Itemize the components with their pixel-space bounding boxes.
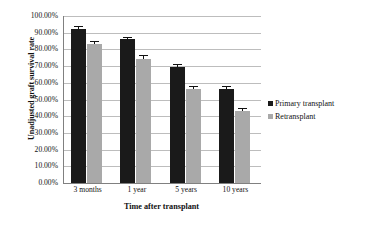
y-tick-label: 80.00% — [14, 46, 58, 54]
graft-survival-bar-chart: Unadjusted graft survival rate 0.00%10.0… — [0, 0, 367, 226]
error-bar-stem — [242, 109, 243, 111]
bar-retransplant — [186, 89, 201, 183]
y-tick-label: 60.00% — [14, 79, 58, 87]
legend-entry: Retransplant — [268, 112, 366, 121]
x-axis-title: Time after transplant — [63, 202, 260, 211]
bar-group — [113, 16, 162, 183]
legend-swatch-icon — [268, 101, 273, 106]
error-bar-stem — [127, 38, 128, 39]
error-bar-stem — [78, 27, 79, 29]
bar-primary-transplant — [170, 67, 185, 183]
y-tick-label: 20.00% — [14, 146, 58, 154]
x-tick-label: 5 years — [162, 185, 211, 194]
legend-entry: Primary transplant — [268, 99, 366, 108]
bar-group — [163, 16, 212, 183]
y-tick-label: 100.00% — [14, 12, 58, 20]
bar-group — [64, 16, 113, 183]
x-axis-tick-labels: 3 months1 year5 years10 years — [63, 185, 260, 199]
bar-primary-transplant — [219, 89, 234, 183]
y-tick-label: 0.00% — [14, 179, 58, 187]
error-bar-stem — [143, 56, 144, 59]
legend-swatch-icon — [268, 114, 273, 119]
bar-primary-transplant — [120, 39, 135, 183]
y-tick-label: 90.00% — [14, 29, 58, 37]
legend-label: Retransplant — [275, 112, 315, 121]
y-tick-label: 40.00% — [14, 112, 58, 120]
bar-primary-transplant — [71, 29, 86, 183]
legend: Primary transplantRetransplant — [268, 99, 366, 125]
legend-label: Primary transplant — [275, 99, 334, 108]
error-bar-stem — [226, 87, 227, 88]
error-bar-stem — [177, 65, 178, 66]
bar-retransplant — [136, 59, 151, 183]
bar-retransplant — [87, 44, 102, 183]
y-tick-label: 50.00% — [14, 96, 58, 104]
y-axis-tick-labels: 0.00%10.00%20.00%30.00%40.00%50.00%60.00… — [14, 16, 58, 183]
error-bar-stem — [193, 87, 194, 89]
y-tick-label: 30.00% — [14, 129, 58, 137]
plot-area — [63, 16, 261, 184]
x-tick-label: 3 months — [63, 185, 112, 194]
x-tick-label: 10 years — [211, 185, 260, 194]
y-tick-label: 10.00% — [14, 163, 58, 171]
bars-layer — [64, 16, 261, 183]
x-tick-label: 1 year — [112, 185, 161, 194]
bar-retransplant — [235, 111, 250, 183]
bar-group — [212, 16, 261, 183]
y-tick-label: 70.00% — [14, 62, 58, 70]
error-bar-stem — [94, 42, 95, 45]
